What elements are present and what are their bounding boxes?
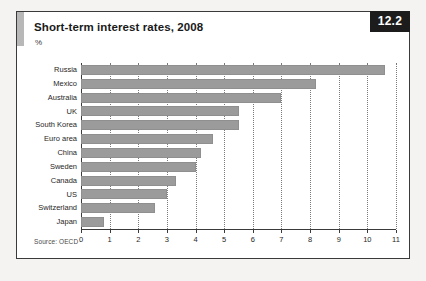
x-axis-tick-label: 7 <box>279 235 283 244</box>
bar-row: China <box>81 148 396 158</box>
bar-row: Canada <box>81 176 396 186</box>
bar-row: Euro area <box>81 134 396 144</box>
bar <box>81 176 176 186</box>
x-axis-tick-label: 2 <box>136 235 140 244</box>
bar <box>81 162 196 172</box>
x-axis-tick <box>224 230 225 233</box>
bar-row: Mexico <box>81 79 396 89</box>
source-note: Source: OECD <box>34 238 78 245</box>
x-axis-tick <box>281 230 282 233</box>
bar-row: Australia <box>81 93 396 103</box>
plot-area: RussiaMexicoAustraliaUKSouth KoreaEuro a… <box>81 63 396 229</box>
bar-category-label: Russia <box>54 66 77 74</box>
x-axis-tick <box>138 230 139 233</box>
x-axis-tick <box>110 230 111 233</box>
bar-category-label: Mexico <box>53 80 77 88</box>
x-axis-tick <box>196 230 197 233</box>
bar-series: RussiaMexicoAustraliaUKSouth KoreaEuro a… <box>81 63 396 229</box>
axis-unit-label: % <box>35 38 42 47</box>
gridline-11 <box>396 63 397 229</box>
bar-category-label: Sweden <box>50 163 77 171</box>
page-background: Short-term interest rates, 2008 % 12.2 R… <box>0 0 426 281</box>
bar <box>81 148 201 158</box>
bar-row: UK <box>81 106 396 116</box>
bar-category-label: China <box>57 149 77 157</box>
x-axis-tick <box>310 230 311 233</box>
bar-row: Russia <box>81 65 396 75</box>
x-axis-tick <box>253 230 254 233</box>
figure-number-badge: 12.2 <box>370 11 410 32</box>
x-axis-tick-label: 10 <box>363 235 371 244</box>
x-axis-tick-label: 9 <box>337 235 341 244</box>
bar-category-label: US <box>67 191 77 199</box>
x-axis-tick <box>367 230 368 233</box>
bar-row: Japan <box>81 217 396 227</box>
x-axis-tick-label: 11 <box>392 235 400 244</box>
bar <box>81 217 104 227</box>
x-axis-tick <box>167 230 168 233</box>
bar <box>81 106 239 116</box>
bar-row: Sweden <box>81 162 396 172</box>
x-axis-tick-label: 0 <box>79 235 83 244</box>
bar <box>81 65 385 75</box>
bar-row: South Korea <box>81 120 396 130</box>
bar <box>81 120 239 130</box>
x-axis-tick <box>396 230 397 233</box>
bar-category-label: Australia <box>48 94 77 102</box>
figure-frame: Short-term interest rates, 2008 % 12.2 R… <box>16 11 410 259</box>
page-title: Short-term interest rates, 2008 <box>34 21 203 33</box>
bar <box>81 93 281 103</box>
bar <box>81 134 213 144</box>
bar-category-label: Euro area <box>44 135 77 143</box>
x-axis-tick-label: 5 <box>222 235 226 244</box>
bar-category-label: UK <box>67 108 77 116</box>
x-axis-tick <box>81 230 82 233</box>
bar-category-label: Japan <box>57 218 77 226</box>
bar-row: Switzerland <box>81 203 396 213</box>
x-axis: 01234567891011 <box>81 229 396 230</box>
bar-category-label: South Korea <box>35 121 77 129</box>
bar <box>81 189 167 199</box>
x-axis-tick-label: 3 <box>165 235 169 244</box>
x-axis-tick-label: 8 <box>308 235 312 244</box>
x-axis-tick-label: 6 <box>251 235 255 244</box>
bar <box>81 203 155 213</box>
bar-category-label: Canada <box>51 177 77 185</box>
bar <box>81 79 316 89</box>
title-accent-block <box>17 12 24 46</box>
x-axis-tick-label: 4 <box>193 235 197 244</box>
bar-row: US <box>81 189 396 199</box>
x-axis-tick-label: 1 <box>108 235 112 244</box>
bar-category-label: Switzerland <box>38 204 77 212</box>
x-axis-tick <box>339 230 340 233</box>
